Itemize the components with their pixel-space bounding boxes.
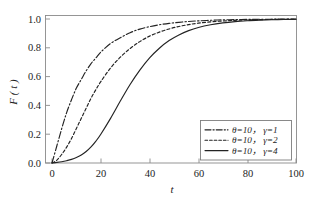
- x-tick-label-60: 60: [194, 168, 205, 179]
- x-tick-label-100: 100: [288, 168, 304, 179]
- x-tick-label-0: 0: [49, 168, 54, 179]
- y-tick-label-0.8: 0.8: [28, 42, 41, 53]
- x-tick-label-20: 20: [96, 168, 107, 179]
- legend-label-gamma-4: θ=10， γ=4: [232, 146, 278, 156]
- y-tick-label-0.0: 0.0: [28, 158, 41, 169]
- legend-label-gamma-1: θ=10， γ=1: [232, 125, 278, 135]
- chart-figure: 0 20 40 60 80 100 0.0 0.2 0.4 0.6 0.8 1.…: [0, 0, 320, 197]
- x-tick-label-40: 40: [145, 168, 156, 179]
- legend-label-gamma-2: θ=10， γ=2: [232, 135, 278, 145]
- y-tick-label-0.4: 0.4: [28, 100, 42, 111]
- legend: θ=10， γ=1 θ=10， γ=2 θ=10， γ=4: [201, 121, 292, 161]
- y-axis-ticks: [46, 19, 51, 163]
- x-axis-title: t: [170, 183, 174, 195]
- y-tick-label-1.0: 1.0: [28, 14, 41, 25]
- y-axis-title: F ( t ): [7, 79, 20, 106]
- y-tick-label-0.2: 0.2: [28, 129, 41, 140]
- x-tick-label-80: 80: [243, 168, 254, 179]
- y-tick-label-0.6: 0.6: [28, 71, 41, 82]
- plot-area: 0 20 40 60 80 100 0.0 0.2 0.4 0.6 0.8 1.…: [0, 0, 320, 197]
